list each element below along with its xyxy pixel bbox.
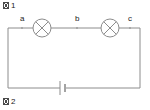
circuit-wires	[8, 28, 140, 88]
missing-glyph-icon	[3, 98, 9, 105]
node-label-b: b	[75, 14, 80, 23]
screenshot-root: 1 a	[0, 0, 150, 110]
lamp-2-icon	[101, 19, 119, 37]
circuit-diagram: a b c	[0, 0, 150, 110]
lamp-1-icon	[33, 19, 51, 37]
node-dot-a	[21, 27, 23, 29]
node-label-c: c	[128, 14, 132, 23]
battery-cell-icon	[60, 81, 65, 95]
figure-number-bottom: 2	[11, 97, 16, 106]
figure-label-bottom: 2	[3, 97, 16, 107]
node-dot-b	[76, 27, 78, 29]
node-label-a: a	[20, 14, 25, 23]
node-dot-c	[129, 27, 131, 29]
